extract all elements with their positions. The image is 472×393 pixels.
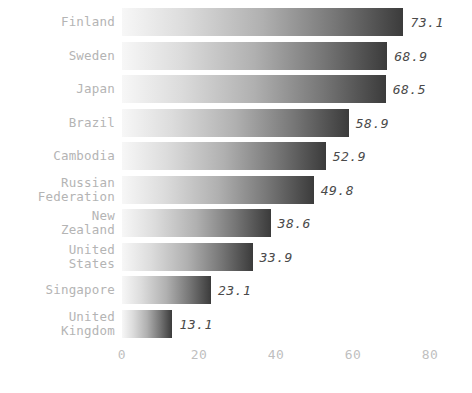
category-label: Russian Federation bbox=[3, 176, 115, 204]
bar-row: Finland73.1 bbox=[0, 8, 472, 36]
x-axis: 020406080 bbox=[0, 347, 472, 369]
plot-area: Finland73.1Sweden68.9Japan68.5Brazil58.9… bbox=[0, 0, 472, 393]
bar bbox=[122, 109, 349, 137]
category-label: Sweden bbox=[3, 49, 115, 63]
bar-value-label: 73.1 bbox=[410, 15, 443, 30]
bar-value-label: 23.1 bbox=[218, 283, 251, 298]
category-label: United States bbox=[3, 243, 115, 271]
bar-row: Cambodia52.9 bbox=[0, 142, 472, 170]
x-axis-tick-label: 20 bbox=[191, 347, 208, 362]
bar-row: Singapore23.1 bbox=[0, 276, 472, 304]
bar-value-label: 52.9 bbox=[333, 149, 366, 164]
category-label: New Zealand bbox=[3, 209, 115, 237]
bar bbox=[122, 243, 253, 271]
bar-chart: Finland73.1Sweden68.9Japan68.5Brazil58.9… bbox=[0, 0, 472, 393]
bar-row: Japan68.5 bbox=[0, 75, 472, 103]
x-axis-tick-label: 40 bbox=[268, 347, 285, 362]
bar bbox=[122, 8, 403, 36]
bar-row: Sweden68.9 bbox=[0, 42, 472, 70]
bar bbox=[122, 176, 314, 204]
bar-value-label: 33.9 bbox=[260, 249, 293, 264]
category-label: Japan bbox=[3, 82, 115, 96]
bar-row: Russian Federation49.8 bbox=[0, 176, 472, 204]
bar-row: United States33.9 bbox=[0, 243, 472, 271]
bar-value-label: 38.6 bbox=[278, 216, 311, 231]
bar bbox=[122, 209, 271, 237]
bar-value-label: 68.9 bbox=[394, 48, 427, 63]
bar-row: United Kingdom13.1 bbox=[0, 310, 472, 338]
x-axis-title bbox=[0, 384, 472, 393]
bar-row: New Zealand38.6 bbox=[0, 209, 472, 237]
category-label: Brazil bbox=[3, 116, 115, 130]
bar bbox=[122, 310, 172, 338]
x-axis-tick-label: 0 bbox=[118, 347, 126, 362]
x-axis-tick-label: 60 bbox=[345, 347, 362, 362]
category-label: Cambodia bbox=[3, 149, 115, 163]
x-axis-tick-label: 80 bbox=[422, 347, 439, 362]
category-label: Singapore bbox=[3, 283, 115, 297]
category-label: United Kingdom bbox=[3, 310, 115, 338]
bar bbox=[122, 42, 387, 70]
category-label: Finland bbox=[3, 15, 115, 29]
bar bbox=[122, 276, 211, 304]
bar-value-label: 58.9 bbox=[356, 115, 389, 130]
bar-value-label: 13.1 bbox=[179, 316, 212, 331]
bar bbox=[122, 142, 326, 170]
bar bbox=[122, 75, 386, 103]
bar-value-label: 68.5 bbox=[393, 82, 426, 97]
bar-value-label: 49.8 bbox=[321, 182, 354, 197]
bar-row: Brazil58.9 bbox=[0, 109, 472, 137]
